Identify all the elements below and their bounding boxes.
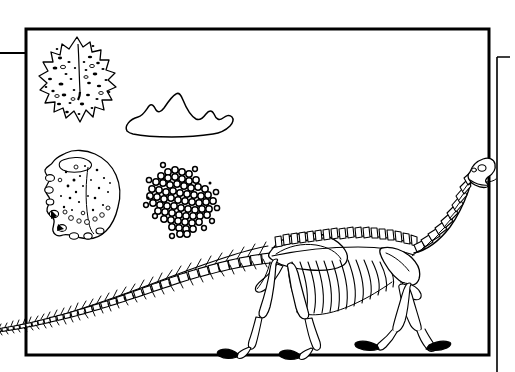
specimen-rock-fragment <box>45 150 120 239</box>
illustration-page <box>0 0 515 372</box>
figure-canvas <box>0 0 515 372</box>
